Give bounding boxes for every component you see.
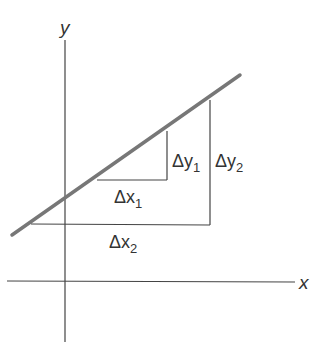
dy1-label: Δy1 (172, 151, 200, 175)
dx2-leg (31, 224, 210, 225)
dx2-label: Δx2 (109, 232, 137, 256)
dy2-label: Δy2 (215, 151, 243, 175)
sloped-line (12, 75, 240, 235)
dx1-label: Δx1 (114, 187, 142, 211)
x-axis (7, 281, 295, 282)
x-axis-label: x (298, 272, 310, 293)
slope-diagram: y x Δy1 Δy2 Δx1 Δx2 (0, 0, 319, 358)
y-axis-label: y (58, 17, 71, 38)
